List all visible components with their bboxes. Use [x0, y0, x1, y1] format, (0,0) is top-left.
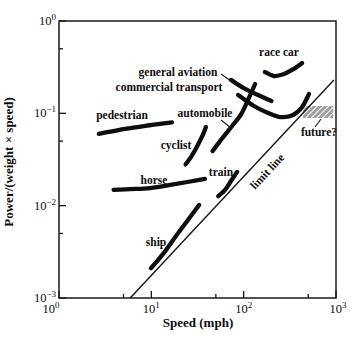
- chart-canvas: pedestriancyclisthorseshiptrainautomobil…: [0, 0, 357, 342]
- gabrielli-von-karman-diagram: pedestriancyclisthorseshiptrainautomobil…: [0, 0, 357, 342]
- train-label: train: [209, 166, 234, 178]
- future-label: future?: [301, 126, 337, 138]
- y-tick-label: 100: [39, 12, 57, 28]
- cyclist-label: cyclist: [161, 139, 192, 152]
- y-tick-label: 10−2: [34, 197, 56, 213]
- x-tick-label: 102: [235, 300, 252, 316]
- x-tick-label: 103: [330, 300, 348, 316]
- plot-border: [59, 21, 336, 298]
- y-axis-title: Power/(weight × speed): [1, 97, 16, 226]
- pedestrian-curve: [99, 122, 172, 134]
- ship-label: ship: [146, 236, 166, 249]
- horse-label: horse: [141, 174, 168, 186]
- commercial-transport-label: commercial transport: [116, 81, 223, 94]
- general-aviation-leader-line: [221, 74, 231, 81]
- x-axis-title: Speed (mph): [163, 315, 233, 330]
- pedestrian-label: pedestrian: [96, 109, 148, 122]
- x-tick-label: 101: [143, 300, 160, 316]
- general-aviation-label: general aviation: [139, 66, 218, 79]
- race-car-curve: [265, 63, 302, 76]
- automobile-label: automobile: [178, 107, 233, 119]
- race-car-label: race car: [259, 46, 299, 58]
- y-tick-label: 10−1: [34, 104, 56, 120]
- limit-line-label: limit line: [248, 151, 287, 191]
- automobile-leader-line: [221, 120, 231, 128]
